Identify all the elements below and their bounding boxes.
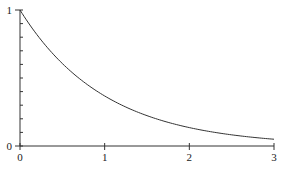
y-tick-label-1: 1 xyxy=(7,4,13,16)
x-tick-label-0: 0 xyxy=(17,151,23,163)
x-tick-label-1: 1 xyxy=(102,151,108,163)
x-tick-label-3: 3 xyxy=(271,151,277,163)
x-tick-label-2: 2 xyxy=(187,151,193,163)
exp-decay-curve xyxy=(20,10,274,139)
y-minor-ticks xyxy=(15,10,23,146)
y-tick-label-0: 0 xyxy=(7,140,13,152)
exponential-decay-chart: 1 0 0 1 2 3 xyxy=(0,0,284,172)
